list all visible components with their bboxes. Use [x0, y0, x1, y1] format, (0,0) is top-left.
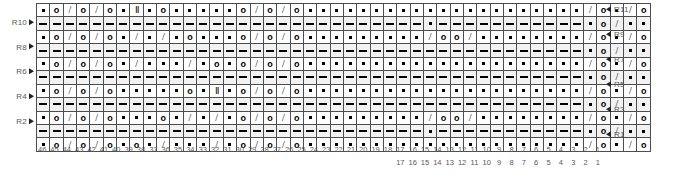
cell-r6-c15[interactable]: [450, 71, 463, 84]
cell-r11-c23[interactable]: [343, 4, 356, 17]
cell-r6-c10[interactable]: [517, 71, 530, 84]
cell-r9-c12[interactable]: [490, 30, 503, 43]
cell-r9-c7[interactable]: [557, 30, 570, 43]
cell-r8-c30[interactable]: [250, 44, 263, 57]
cell-r5-c32[interactable]: [223, 84, 236, 97]
cell-r9-c21[interactable]: [370, 30, 383, 43]
cell-r7-c31[interactable]: [237, 57, 250, 70]
cell-r10-c18[interactable]: [410, 17, 423, 30]
cell-r3-c29[interactable]: [263, 111, 276, 124]
cell-r7-c5[interactable]: [584, 57, 597, 70]
cell-r10-c12[interactable]: [490, 17, 503, 30]
cell-r3-c8[interactable]: [544, 111, 557, 124]
cell-r9-c29[interactable]: [263, 30, 276, 43]
cell-r7-c18[interactable]: [410, 57, 423, 70]
cell-r11-c26[interactable]: [303, 4, 316, 17]
cell-r9-c33[interactable]: [210, 30, 223, 43]
cell-r8-c6[interactable]: [570, 44, 583, 57]
cell-r6-c44[interactable]: [63, 71, 76, 84]
cell-r10-c21[interactable]: [370, 17, 383, 30]
cell-r2-c45[interactable]: [50, 124, 63, 137]
cell-r5-c9[interactable]: [530, 84, 543, 97]
cell-r4-c33[interactable]: [210, 98, 223, 111]
cell-r8-c19[interactable]: [397, 44, 410, 57]
cell-r9-c25[interactable]: [317, 30, 330, 43]
cell-r3-c26[interactable]: [303, 111, 316, 124]
cell-r11-c44[interactable]: [63, 4, 76, 17]
cell-r4-c39[interactable]: [130, 98, 143, 111]
cell-r6-c22[interactable]: [357, 71, 370, 84]
cell-r5-c6[interactable]: [570, 84, 583, 97]
cell-r7-c26[interactable]: [303, 57, 316, 70]
cell-r5-c21[interactable]: [370, 84, 383, 97]
cell-r2-c29[interactable]: [263, 124, 276, 137]
cell-r4-c41[interactable]: [103, 98, 116, 111]
cell-r10-c17[interactable]: [423, 17, 436, 30]
cell-r9-c23[interactable]: [343, 30, 356, 43]
cell-r5-c23[interactable]: [343, 84, 356, 97]
cell-r4-c38[interactable]: [143, 98, 156, 111]
cell-r3-c36[interactable]: [170, 111, 183, 124]
cell-r11-c31[interactable]: [237, 4, 250, 17]
cell-r7-c42[interactable]: [90, 57, 103, 70]
cell-r7-c14[interactable]: [464, 57, 477, 70]
cell-r8-c32[interactable]: [223, 44, 236, 57]
cell-r8-c41[interactable]: [103, 44, 116, 57]
cell-r6-c33[interactable]: [210, 71, 223, 84]
cell-r8-c43[interactable]: [77, 44, 90, 57]
cell-r11-c36[interactable]: [170, 4, 183, 17]
cell-r7-c21[interactable]: [370, 57, 383, 70]
cell-r2-c36[interactable]: [170, 124, 183, 137]
cell-r5-c11[interactable]: [504, 84, 517, 97]
cell-r5-c39[interactable]: [130, 84, 143, 97]
cell-r3-c23[interactable]: [343, 111, 356, 124]
cell-r6-c20[interactable]: [383, 71, 396, 84]
cell-r6-c8[interactable]: [544, 71, 557, 84]
cell-r3-c10[interactable]: [517, 111, 530, 124]
cell-r3-c42[interactable]: [90, 111, 103, 124]
cell-r2-c22[interactable]: [357, 124, 370, 137]
cell-r8-c5[interactable]: [584, 44, 597, 57]
cell-r10-c31[interactable]: [237, 17, 250, 30]
cell-r8-c36[interactable]: [170, 44, 183, 57]
cell-r10-c30[interactable]: [250, 17, 263, 30]
cell-r10-c35[interactable]: [183, 17, 196, 30]
cell-r4-c17[interactable]: [423, 98, 436, 111]
cell-r3-c25[interactable]: [317, 111, 330, 124]
cell-r4-c19[interactable]: [397, 98, 410, 111]
cell-r8-c35[interactable]: [183, 44, 196, 57]
cell-r8-c24[interactable]: [330, 44, 343, 57]
cell-r7-c7[interactable]: [557, 57, 570, 70]
cell-r8-c15[interactable]: [450, 44, 463, 57]
cell-r11-c28[interactable]: [277, 4, 290, 17]
cell-r4-c18[interactable]: [410, 98, 423, 111]
cell-r10-c27[interactable]: [290, 17, 303, 30]
cell-r8-c34[interactable]: [197, 44, 210, 57]
cell-r6-c35[interactable]: [183, 71, 196, 84]
cell-r2-c9[interactable]: [530, 124, 543, 137]
cell-r2-c27[interactable]: [290, 124, 303, 137]
cell-r8-c46[interactable]: [37, 44, 50, 57]
cell-r10-c10[interactable]: [517, 17, 530, 30]
cell-r11-c37[interactable]: [157, 4, 170, 17]
cell-r9-c6[interactable]: [570, 30, 583, 43]
cell-r6-c45[interactable]: [50, 71, 63, 84]
cell-r7-c37[interactable]: [157, 57, 170, 70]
cell-r11-c9[interactable]: [530, 4, 543, 17]
cell-r11-c18[interactable]: [410, 4, 423, 17]
cell-r8-c18[interactable]: [410, 44, 423, 57]
cell-r6-c14[interactable]: [464, 71, 477, 84]
cell-r7-c30[interactable]: [250, 57, 263, 70]
cell-r2-c40[interactable]: [117, 124, 130, 137]
cell-r11-c38[interactable]: [143, 4, 156, 17]
cell-r4-c27[interactable]: [290, 98, 303, 111]
cell-r2-c13[interactable]: [477, 124, 490, 137]
cell-r4-c12[interactable]: [490, 98, 503, 111]
cell-r8-c8[interactable]: [544, 44, 557, 57]
cell-r6-c11[interactable]: [504, 71, 517, 84]
cell-r11-c45[interactable]: [50, 4, 63, 17]
cell-r3-c11[interactable]: [504, 111, 517, 124]
cell-r3-c17[interactable]: [423, 111, 436, 124]
cell-r10-c43[interactable]: [77, 17, 90, 30]
cell-r6-c21[interactable]: [370, 71, 383, 84]
